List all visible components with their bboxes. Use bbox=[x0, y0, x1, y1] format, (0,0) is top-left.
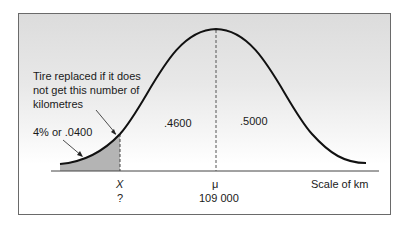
mean-value: 109 000 bbox=[199, 192, 239, 205]
annotation-text-line1: Tire replaced if it does bbox=[33, 70, 141, 83]
left-area-label: .4600 bbox=[164, 117, 192, 130]
annotation-text-line2: not get this number of bbox=[33, 84, 139, 97]
axis-label: Scale of km bbox=[311, 178, 368, 191]
shaded-tail-region bbox=[60, 134, 120, 171]
right-area-label: .5000 bbox=[240, 115, 268, 128]
cutoff-value: ? bbox=[117, 192, 123, 205]
annotation-text-line3: kilometres bbox=[33, 98, 83, 111]
arrowhead-icon bbox=[77, 151, 83, 157]
mean-symbol: μ bbox=[212, 178, 218, 191]
tail-area-label: 4% or .0400 bbox=[33, 126, 92, 139]
arrowhead-icon bbox=[111, 129, 116, 135]
cutoff-symbol: X bbox=[116, 178, 123, 191]
